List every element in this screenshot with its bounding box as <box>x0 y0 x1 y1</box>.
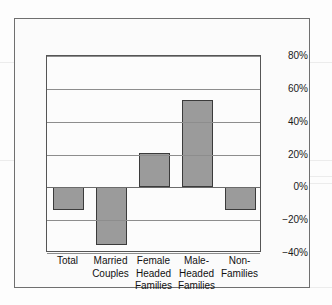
y-tick-label: 60% <box>268 82 308 93</box>
x-category-label: Total <box>46 255 89 268</box>
gridline--20 <box>47 220 260 221</box>
x-category-label: Male- Headed Families <box>175 255 218 293</box>
gridline-20 <box>47 155 260 156</box>
gridline-60 <box>47 89 260 90</box>
x-category-label: Married Couples <box>89 255 132 280</box>
x-axis-category-labels: TotalMarried CouplesFemale Headed Famili… <box>46 255 261 301</box>
plot-area <box>46 55 261 252</box>
y-tick-label: 20% <box>268 148 308 159</box>
gridline-0 <box>47 187 260 188</box>
gridline-80 <box>47 56 260 57</box>
x-category-label: Female Headed Families <box>132 255 175 293</box>
y-tick-label: −40% <box>268 247 308 258</box>
figure-frame: 80%60%40%20%0%−20%−40% TotalMarried Coup… <box>14 18 310 288</box>
y-tick-label: 0% <box>268 181 308 192</box>
bar <box>182 100 213 187</box>
bar <box>139 153 170 187</box>
y-tick-label: 80% <box>268 50 308 61</box>
bar <box>225 187 256 210</box>
bar <box>53 187 84 210</box>
y-tick-label: 40% <box>268 115 308 126</box>
bar <box>96 187 127 244</box>
x-category-label: Non- Families <box>218 255 261 280</box>
y-tick-label: −20% <box>268 214 308 225</box>
bar-series <box>47 56 260 251</box>
gridline-40 <box>47 122 260 123</box>
bar-chart: 80%60%40%20%0%−20%−40% <box>46 55 305 253</box>
gridline--40 <box>47 253 260 254</box>
